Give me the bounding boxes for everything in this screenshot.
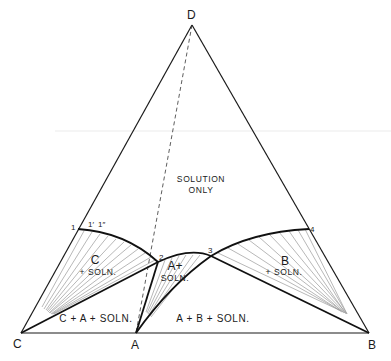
vertex-label-a: A [131,338,139,352]
point-label-4: 4 [310,225,315,234]
point-label-1-double-prime: 1″ [98,220,105,229]
vertex-label-c: C [13,337,22,351]
vertex-label-d: D [187,8,196,22]
point-label-1-prime: 1′ [88,220,94,229]
region-label-c: C [91,253,100,267]
region-label-b: B [281,254,289,268]
point-label-3: 3 [208,246,213,255]
region-label-c-soln: + SOLN. [79,267,116,277]
region-label-a-b-soln: A + B + SOLN. [176,313,249,324]
point-label-2: 2 [159,253,164,262]
region-label-c-a-soln: C + A + SOLN. [59,313,132,324]
region-label-a-soln: SOLN. [161,273,190,283]
vertex-label-b: B [368,338,376,352]
curve-3-4 [211,229,309,256]
point-label-1: 1 [71,223,76,232]
region-label-only: ONLY [189,185,214,195]
ternary-phase-diagram: D C A B 1 1′ 1″ 2 3 4 SOLUTION ONLY C + … [0,0,391,361]
region-label-solution: SOLUTION [177,174,225,184]
region-label-a-plus: A+ [167,259,182,273]
region-label-b-soln: + SOLN. [265,267,302,277]
